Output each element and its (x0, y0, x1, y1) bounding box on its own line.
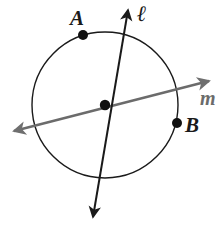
point-a-label: A (70, 8, 84, 29)
point-a (78, 30, 88, 40)
line-m-label: m (200, 88, 216, 108)
center-point (100, 100, 110, 110)
line-l (93, 10, 128, 217)
point-b (172, 118, 182, 128)
line-l-label: ℓ (137, 2, 146, 24)
point-b-label: B (185, 115, 199, 136)
geometry-figure: A B ℓ m (0, 0, 222, 226)
